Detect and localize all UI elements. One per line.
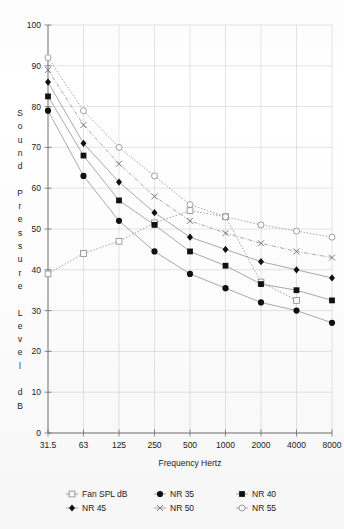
- y-axis-title-char: r: [19, 201, 22, 211]
- data-point: [223, 263, 229, 269]
- legend-label: NR 45: [82, 503, 106, 513]
- legend-item[interactable]: NR 55: [236, 503, 276, 513]
- data-point: [294, 228, 300, 234]
- y-axis-title-char: d: [18, 387, 23, 397]
- data-point: [294, 298, 300, 304]
- data-point: [187, 249, 193, 255]
- y-axis-title-char: u: [18, 254, 23, 264]
- data-point: [329, 298, 335, 304]
- y-axis-title-char: n: [18, 148, 23, 158]
- gridlines: [48, 25, 332, 433]
- y-tick-label: 50: [32, 224, 42, 234]
- data-point: [258, 281, 264, 287]
- data-point: [258, 299, 264, 305]
- y-tick-label: 90: [32, 61, 42, 71]
- legend-label: NR 35: [170, 489, 194, 499]
- data-point: [239, 491, 245, 497]
- y-tick-label: 10: [32, 387, 42, 397]
- legend: Fan SPL dBNR 35NR 40NR 45NR 50NR 55: [66, 489, 276, 513]
- data-point: [157, 491, 163, 497]
- y-axis-title-char: e: [18, 281, 23, 291]
- data-point: [69, 504, 75, 511]
- x-tick-label: 1000: [216, 440, 235, 450]
- y-axis-title-char: B: [17, 401, 23, 411]
- y-axis-title-char: o: [18, 121, 23, 131]
- data-point: [329, 274, 335, 281]
- data-point: [293, 308, 299, 314]
- y-axis-title-char: v: [18, 334, 23, 344]
- noise-rating-chart: 010203040506070809010031.563125250500100…: [0, 0, 344, 529]
- data-point: [187, 234, 193, 241]
- data-point: [45, 94, 51, 100]
- y-tick-label: 100: [27, 20, 41, 30]
- legend-item[interactable]: NR 40: [236, 489, 276, 499]
- data-point: [329, 234, 335, 240]
- y-tick-label: 20: [32, 346, 42, 356]
- data-point: [45, 108, 51, 114]
- y-axis-title-char: r: [19, 268, 22, 278]
- data-point: [239, 505, 245, 511]
- data-point: [81, 108, 87, 114]
- data-point: [187, 202, 193, 208]
- x-tick-label: 2000: [252, 440, 271, 450]
- data-point: [223, 214, 229, 220]
- y-tick-label: 0: [36, 428, 41, 438]
- data-point: [116, 144, 122, 150]
- data-point: [223, 246, 229, 253]
- y-axis-title-char: e: [18, 347, 23, 357]
- x-tick-label: 31.5: [40, 440, 57, 450]
- axes: 010203040506070809010031.563125250500100…: [27, 20, 342, 468]
- data-point: [45, 79, 51, 86]
- legend-label: NR 40: [252, 489, 276, 499]
- x-tick-label: 500: [183, 440, 197, 450]
- data-point: [152, 222, 158, 228]
- legend-label: NR 50: [170, 503, 194, 513]
- data-point: [294, 266, 300, 273]
- data-point: [152, 173, 158, 179]
- x-tick-label: 8000: [323, 440, 342, 450]
- y-axis-title-char: S: [17, 108, 23, 118]
- x-tick-label: 250: [147, 440, 161, 450]
- data-point: [45, 271, 51, 277]
- data-point: [69, 491, 75, 497]
- legend-item[interactable]: NR 35: [154, 489, 194, 499]
- y-tick-label: 60: [32, 183, 42, 193]
- x-tick-label: 63: [79, 440, 89, 450]
- y-tick-label: 80: [32, 102, 42, 112]
- y-axis-title-char: e: [18, 321, 23, 331]
- data-point: [81, 251, 87, 257]
- legend-label: Fan SPL dB: [82, 489, 128, 499]
- y-axis-title-char: l: [19, 361, 21, 371]
- data-point: [222, 285, 228, 291]
- data-point: [80, 173, 86, 179]
- data-point: [116, 198, 122, 204]
- y-axis-title-char: L: [18, 308, 23, 318]
- legend-item[interactable]: NR 45: [66, 503, 106, 513]
- legend-item[interactable]: NR 50: [154, 503, 194, 513]
- legend-item[interactable]: Fan SPL dB: [66, 489, 128, 499]
- data-point: [187, 208, 193, 214]
- x-tick-label: 4000: [287, 440, 306, 450]
- y-tick-label: 70: [32, 142, 42, 152]
- data-point: [294, 287, 300, 293]
- y-axis-title-char: s: [18, 241, 22, 251]
- y-axis-title-char: s: [18, 228, 22, 238]
- y-tick-label: 30: [32, 306, 42, 316]
- data-point: [116, 218, 122, 224]
- legend-label: NR 55: [252, 503, 276, 513]
- x-tick-label: 125: [112, 440, 126, 450]
- data-point: [187, 271, 193, 277]
- y-axis-title-char: P: [17, 188, 23, 198]
- data-point: [258, 222, 264, 228]
- x-axis-title: Frequency Hertz: [159, 458, 222, 468]
- data-point: [151, 248, 157, 254]
- data-point: [45, 55, 51, 61]
- chart-canvas: 010203040506070809010031.563125250500100…: [0, 0, 344, 529]
- y-axis-title-char: u: [18, 135, 23, 145]
- data-point: [81, 153, 87, 159]
- data-point: [329, 320, 335, 326]
- data-point: [152, 209, 158, 216]
- data-point: [258, 258, 264, 265]
- y-tick-label: 40: [32, 265, 42, 275]
- y-axis-title-char: e: [18, 214, 23, 224]
